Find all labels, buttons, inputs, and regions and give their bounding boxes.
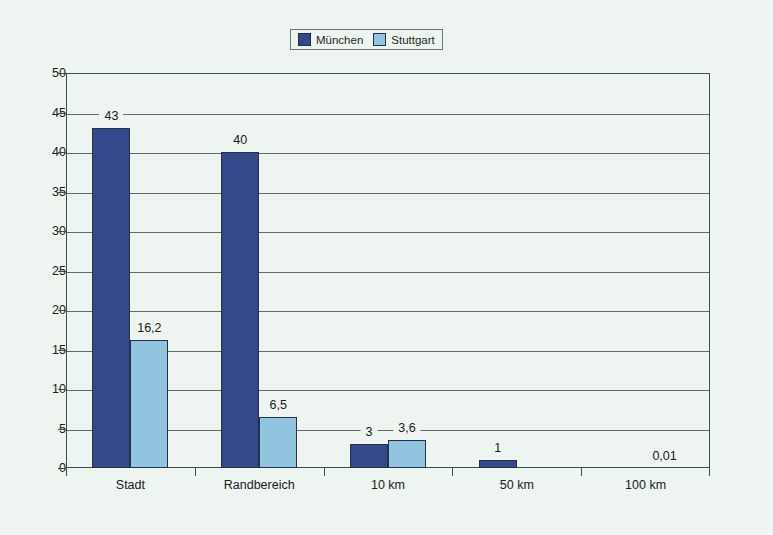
legend-label: Stuttgart	[391, 34, 434, 46]
y-tick-mark-45	[58, 113, 66, 114]
x-tick-mark-1	[195, 468, 196, 476]
bar-münchen-randbereich	[221, 152, 259, 468]
legend-entry-stuttgart: Stuttgart	[373, 33, 434, 46]
y-tick-mark-15	[58, 350, 66, 351]
x-tick-mark-3	[452, 468, 453, 476]
chart-legend: MünchenStuttgart	[290, 29, 443, 50]
y-tick-mark-40	[58, 152, 66, 153]
bar-stuttgart-stadt	[130, 340, 168, 468]
y-tick-mark-10	[58, 389, 66, 390]
y-tick-mark-30	[58, 231, 66, 232]
y-tick-mark-20	[58, 310, 66, 311]
legend-swatch-muenchen	[298, 33, 311, 46]
x-axis-ticks	[66, 468, 710, 477]
y-tick-mark-50	[58, 73, 66, 74]
x-axis-label-50-km: 50 km	[500, 478, 534, 492]
bar-münchen-10-km	[350, 444, 388, 468]
chart-screenshot: MünchenStuttgart 05101520253035404550 43…	[0, 0, 773, 535]
bar-stuttgart-randbereich	[259, 417, 297, 468]
y-axis: 05101520253035404550	[0, 73, 66, 468]
x-tick-mark-5	[709, 468, 710, 476]
y-tick-mark-35	[58, 192, 66, 193]
legend-entry-münchen: München	[298, 33, 363, 46]
legend-swatch-stuttgart	[373, 33, 386, 46]
x-tick-mark-2	[324, 468, 325, 476]
bars-layer	[66, 73, 710, 468]
legend-label: München	[316, 34, 363, 46]
bar-stuttgart-10-km	[388, 440, 426, 468]
x-axis-label-randbereich: Randbereich	[224, 478, 295, 492]
x-axis-label-10-km: 10 km	[371, 478, 405, 492]
bar-münchen-50-km	[479, 460, 517, 468]
x-tick-mark-0	[66, 468, 67, 476]
x-axis-label-100-km: 100 km	[625, 478, 666, 492]
y-tick-mark-0	[58, 468, 66, 469]
y-tick-mark-25	[58, 271, 66, 272]
x-tick-mark-4	[581, 468, 582, 476]
bar-münchen-stadt	[92, 128, 130, 468]
x-axis-labels: StadtRandbereich10 km50 km100 km	[66, 478, 710, 500]
y-tick-mark-5	[58, 429, 66, 430]
x-axis-label-stadt: Stadt	[116, 478, 145, 492]
